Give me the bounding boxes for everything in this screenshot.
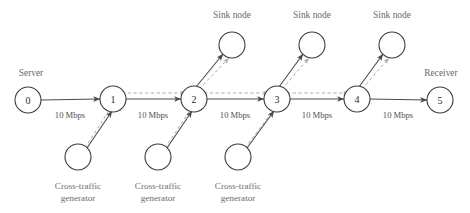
server-label: Server (19, 68, 44, 78)
uplink-gen1-node1 (87, 111, 112, 148)
sink-node-3-circle[interactable] (379, 32, 405, 58)
sink-uplinks (196, 54, 383, 87)
flow-node4-to-sink3 (362, 58, 389, 89)
generator-2-circle[interactable] (145, 144, 171, 170)
uplink-node4-sink3 (359, 54, 383, 87)
uplink-gen2-node2 (167, 111, 192, 148)
generator-3-label-line2: generator (221, 193, 256, 203)
flow-node2-to-sink1 (199, 58, 229, 89)
node-3-label: 3 (275, 94, 280, 105)
generator-2-label-line1: Cross-traffic (135, 181, 181, 191)
diagram-svg: 0 1 2 3 4 5 10 Mbps 10 Mbps (0, 0, 470, 213)
uplink-node3-sink2 (279, 54, 303, 87)
flow-gen2-to-node2 (165, 112, 189, 148)
sink-nodes (219, 32, 405, 58)
uplink-gen3-node3 (247, 111, 274, 148)
flow-gen1-to-node1 (85, 112, 108, 148)
sink-node-labels: Sink node Sink node Sink node (213, 10, 411, 20)
node-0-label: 0 (26, 95, 31, 106)
capacity-label-link-0-1: 10 Mbps (55, 110, 86, 120)
generator-labels: Cross-traffic generator Cross-traffic ge… (55, 181, 261, 203)
cross-traffic-flow-paths (85, 58, 389, 148)
cross-traffic-generator-nodes (65, 144, 251, 170)
sink-node-1-label: Sink node (213, 10, 251, 20)
link-node4-node5 (370, 99, 427, 100)
capacity-label-link-3-4: 10 Mbps (302, 110, 333, 120)
sink-node-1-circle[interactable] (219, 32, 245, 58)
flow-node3-to-sink2 (282, 58, 309, 89)
node-4-label: 4 (355, 94, 360, 105)
generator-1-label-line1: Cross-traffic (55, 181, 101, 191)
generator-1-label-line2: generator (61, 193, 96, 203)
sink-node-3-label: Sink node (373, 10, 411, 20)
network-diagram-canvas: 0 1 2 3 4 5 10 Mbps 10 Mbps (0, 0, 470, 213)
capacity-label-link-2-3: 10 Mbps (220, 110, 251, 120)
endpoint-labels: Server Receiver (19, 68, 459, 78)
uplink-node2-sink1 (196, 54, 223, 87)
generator-3-circle[interactable] (225, 144, 251, 170)
node-2-label: 2 (192, 94, 197, 105)
generator-2-label-line2: generator (141, 193, 176, 203)
link-node0-node1 (41, 99, 100, 100)
capacity-label-link-4-5: 10 Mbps (383, 110, 414, 120)
generator-3-label-line1: Cross-traffic (215, 181, 261, 191)
sink-node-2-label: Sink node (293, 10, 331, 20)
node-1-label: 1 (111, 94, 116, 105)
node-5-label: 5 (438, 95, 443, 106)
receiver-label: Receiver (424, 68, 458, 78)
sink-node-2-circle[interactable] (299, 32, 325, 58)
generator-1-circle[interactable] (65, 144, 91, 170)
capacity-label-link-1-2: 10 Mbps (138, 110, 169, 120)
